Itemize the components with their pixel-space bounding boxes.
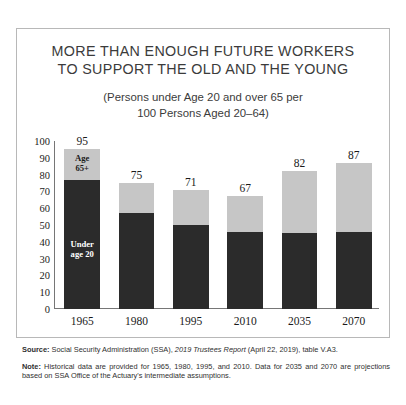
bar-segment-under-age-20-1995[interactable] (173, 225, 209, 309)
source-report-title: 2019 Trustees Report (175, 345, 246, 354)
bar-chart-plot: 1009080706050403020100 95Age65+Underage … (17, 129, 391, 337)
bar-segment-under-age-20-2010[interactable] (227, 232, 263, 309)
x-axis-tick-1965: 1965 (52, 315, 112, 327)
bar-segment-age-65-plus-2010[interactable] (227, 196, 263, 231)
bar-segment-age-65-plus-1965[interactable]: Age65+ (64, 149, 100, 179)
bar-stack-2035 (282, 171, 318, 309)
y-axis-tick-80: 80 (40, 169, 51, 180)
bar-total-label-1980: 75 (119, 169, 155, 181)
bar-segment-age-65-plus-2035[interactable] (282, 171, 318, 233)
bar-segment-age-65-plus-2070[interactable] (336, 163, 372, 232)
source-text-2: (April 22, 2019), table V.A3. (246, 345, 338, 354)
note-label: Note: (22, 362, 41, 371)
y-axis-tick-60: 60 (40, 203, 51, 214)
chart-subtitle: (Persons under Age 20 and over 65 per 10… (17, 78, 389, 121)
y-axis-tick-20: 20 (40, 270, 51, 281)
bar-total-label-2010: 67 (227, 182, 263, 194)
bar-stack-1965: Age65+Underage 20 (64, 149, 100, 309)
footnotes: Source: Social Security Administration (… (22, 345, 390, 388)
bar-total-label-2035: 82 (282, 157, 318, 169)
y-axis-tick-70: 70 (40, 186, 51, 197)
bar-column-2070[interactable]: 872070 (336, 141, 372, 309)
plot-area: 1009080706050403020100 95Age65+Underage … (55, 141, 381, 309)
y-axis-tick-50: 50 (40, 220, 51, 231)
source-text-1: Social Security Administration (SSA), (50, 345, 175, 354)
bar-stack-2010 (227, 196, 263, 309)
bar-segment-age-65-plus-1980[interactable] (119, 183, 155, 213)
y-axis-tick-30: 30 (40, 253, 51, 264)
legend-label-age-65-plus-line-2: 65+ (64, 163, 100, 173)
x-axis-tick-2070: 2070 (324, 315, 384, 327)
bar-stack-1980 (119, 183, 155, 309)
bar-stack-1995 (173, 190, 209, 309)
bar-total-label-2070: 87 (336, 149, 372, 161)
figure-card: MORE THAN ENOUGH FUTURE WORKERS TO SUPPO… (16, 28, 390, 338)
chart-subtitle-line-2: 100 Persons Aged 20–64) (17, 105, 389, 121)
y-axis-tick-0: 0 (45, 304, 50, 315)
y-axis-tick-40: 40 (40, 236, 51, 247)
x-axis-tick-1980: 1980 (107, 315, 167, 327)
legend-label-under-age-20: Underage 20 (64, 239, 100, 259)
x-axis-tick-1995: 1995 (161, 315, 221, 327)
chart-title-line-1: MORE THAN ENOUGH FUTURE WORKERS (17, 42, 389, 60)
legend-label-age-65-plus: Age65+ (64, 153, 100, 173)
x-axis-tick-2010: 2010 (215, 315, 275, 327)
bar-column-1995[interactable]: 711995 (173, 141, 209, 309)
x-axis-tick-2035: 2035 (270, 315, 330, 327)
source-label: Source: (22, 345, 50, 354)
source-note: Source: Social Security Administration (… (22, 345, 390, 355)
y-axis-tick-10: 10 (40, 287, 51, 298)
chart-title-line-2: TO SUPPORT THE OLD AND THE YOUNG (17, 60, 389, 78)
bar-column-1980[interactable]: 751980 (119, 141, 155, 309)
bar-segment-under-age-20-2035[interactable] (282, 233, 318, 309)
bar-column-2010[interactable]: 672010 (227, 141, 263, 309)
bar-segment-under-age-20-2070[interactable] (336, 232, 372, 309)
bar-segment-under-age-20-1980[interactable] (119, 213, 155, 309)
bar-segment-under-age-20-1965[interactable]: Underage 20 (64, 180, 100, 309)
legend-label-under-age-20-line-2: age 20 (64, 249, 100, 259)
bar-segment-age-65-plus-1995[interactable] (173, 190, 209, 225)
legend-label-under-age-20-line-1: Under (64, 239, 100, 249)
methodology-note: Note: Historical data are provided for 1… (22, 362, 390, 381)
bar-stack-2070 (336, 163, 372, 309)
y-axis-tick-100: 100 (34, 136, 50, 147)
legend-label-age-65-plus-line-1: Age (64, 153, 100, 163)
bar-total-label-1965: 95 (64, 135, 100, 147)
y-axis-tick-90: 90 (40, 152, 51, 163)
chart-title: MORE THAN ENOUGH FUTURE WORKERS TO SUPPO… (17, 29, 389, 78)
bar-column-2035[interactable]: 822035 (282, 141, 318, 309)
note-text: Historical data are provided for 1965, 1… (22, 362, 390, 381)
chart-subtitle-line-1: (Persons under Age 20 and over 65 per (17, 89, 389, 105)
bar-total-label-1995: 71 (173, 176, 209, 188)
bar-column-1965[interactable]: 95Age65+Underage 201965 (64, 141, 100, 309)
